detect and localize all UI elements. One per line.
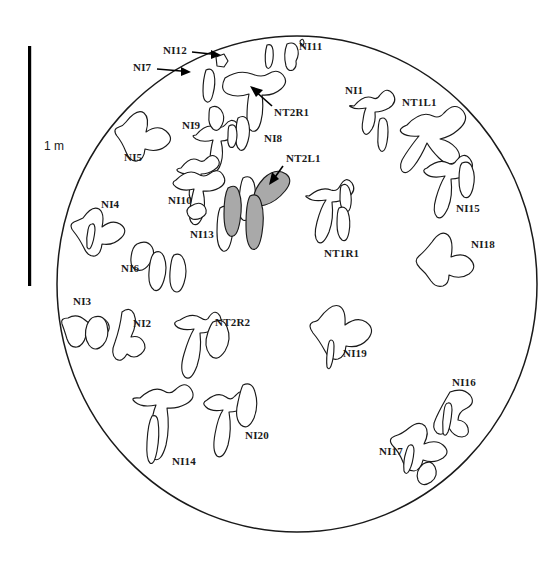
track-NI4[interactable]	[71, 208, 125, 256]
track-NI3[interactable]	[62, 316, 110, 349]
track-NI19[interactable]	[310, 306, 372, 369]
track-label-NT1R1: NT1R1	[324, 248, 359, 259]
track-label-NT1L1: NT1L1	[402, 97, 437, 108]
track-label-NI8: NI8	[264, 133, 282, 144]
track-label-NI12: NI12	[163, 45, 187, 56]
track-NT1R1[interactable]	[306, 180, 354, 243]
track-NI7[interactable]	[203, 69, 215, 102]
track-label-NT2R1: NT2R1	[274, 107, 309, 118]
track-label-NI9: NI9	[182, 120, 200, 131]
track-NI20[interactable]	[204, 384, 257, 457]
track-label-NI2: NI2	[133, 318, 151, 329]
track-label-NI5: NI5	[124, 152, 142, 163]
tracksite-canvas	[0, 0, 552, 565]
track-label-NI6: NI6	[121, 263, 139, 274]
track-label-NI18: NI18	[471, 239, 495, 250]
track-label-NI14: NI14	[172, 456, 196, 467]
track-NI14[interactable]	[133, 385, 193, 464]
track-label-NI16: NI16	[452, 377, 476, 388]
track-label-NI11: NI11	[299, 41, 322, 52]
tracksite-figure: 1 m NI12 NI7 NI11 NT2R1 NI1 NT1L1 NI9 NI…	[0, 0, 552, 565]
track-label-NI19: NI19	[343, 348, 367, 359]
track-NI1[interactable]	[350, 90, 395, 151]
track-label-NI17: NI17	[379, 446, 403, 457]
track-label-NI13: NI13	[190, 229, 214, 240]
track-label-NT2R2: NT2R2	[215, 317, 250, 328]
track-label-NI4: NI4	[101, 199, 119, 210]
track-label-NI1: NI1	[345, 85, 363, 96]
track-label-NT2L1: NT2L1	[286, 153, 321, 164]
track-label-NI10: NI10	[168, 195, 192, 206]
scale-bar-label: 1 m	[44, 140, 64, 152]
track-label-NI7: NI7	[133, 62, 151, 73]
track-label-NI3: NI3	[73, 296, 91, 307]
track-label-NI15: NI15	[456, 203, 480, 214]
track-label-NI20: NI20	[245, 430, 269, 441]
scale-bar	[28, 46, 31, 286]
track-NI18[interactable]	[416, 233, 474, 286]
track-NT2L1[interactable]	[224, 171, 290, 249]
track-NI16[interactable]	[434, 390, 473, 437]
